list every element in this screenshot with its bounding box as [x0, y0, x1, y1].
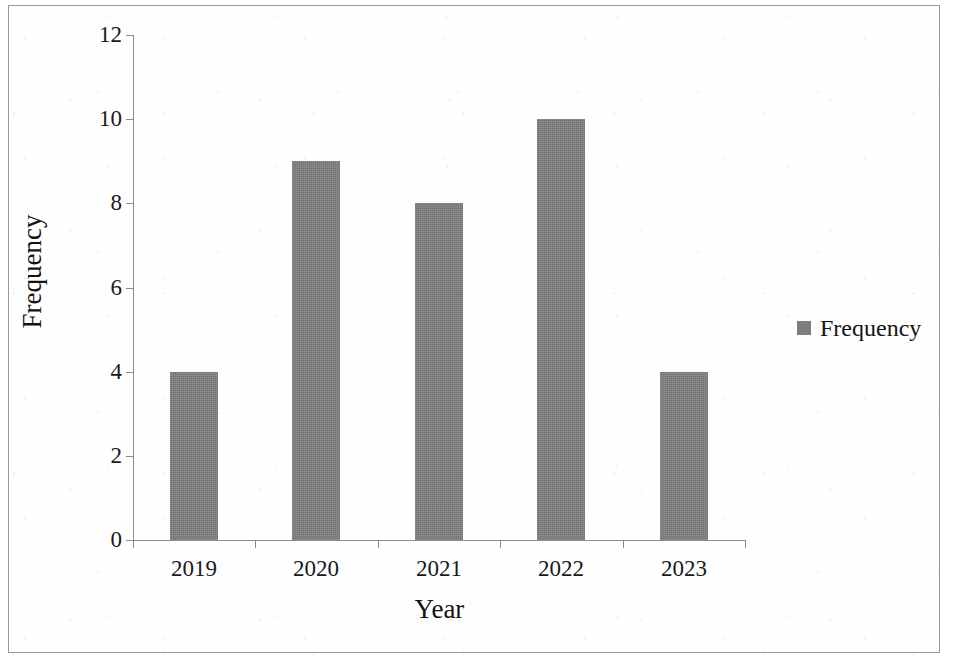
x-axis-line [133, 540, 746, 541]
y-tick-6 [126, 288, 134, 289]
y-axis-title: Frequency [19, 192, 46, 352]
legend-swatch-frequency [797, 321, 811, 335]
y-tick-label-0: 0 [76, 528, 122, 551]
y-tick-2 [126, 456, 134, 457]
x-tick-label-2019: 2019 [139, 556, 249, 581]
y-tick-12 [126, 35, 134, 36]
x-tick-boundary-3 [500, 540, 501, 548]
bar-2022 [537, 119, 585, 540]
x-tick-label-2023: 2023 [629, 556, 739, 581]
y-tick-10 [126, 119, 134, 120]
y-tick-label-4: 4 [76, 360, 122, 383]
x-axis-title: Year [133, 596, 746, 623]
y-tick-label-10: 10 [76, 107, 122, 130]
bar-2023 [660, 372, 708, 540]
x-tick-boundary-4 [623, 540, 624, 548]
y-tick-label-2: 2 [76, 444, 122, 467]
y-tick-label-6: 6 [76, 276, 122, 299]
x-tick-label-2021: 2021 [384, 556, 494, 581]
x-tick-boundary-1 [255, 540, 256, 548]
y-tick-label-12: 12 [76, 23, 122, 46]
bar-2019 [170, 372, 218, 540]
bar-2021 [415, 203, 463, 540]
x-tick-label-2020: 2020 [261, 556, 371, 581]
x-tick-boundary-2 [378, 540, 379, 548]
x-tick-boundary-5 [745, 540, 746, 548]
legend-label-frequency: Frequency [820, 316, 921, 340]
y-tick-label-8: 8 [76, 191, 122, 214]
y-tick-4 [126, 372, 134, 373]
legend: Frequency [797, 316, 921, 340]
bar-chart: 0 2 4 6 8 10 12 2019 2020 2021 2022 2023… [0, 0, 954, 668]
bar-2020 [292, 161, 340, 540]
y-tick-8 [126, 203, 134, 204]
x-tick-label-2022: 2022 [506, 556, 616, 581]
x-tick-boundary-0 [133, 540, 134, 548]
